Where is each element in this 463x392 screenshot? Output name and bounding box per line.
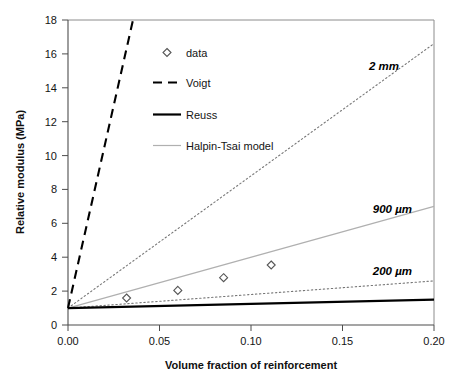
y-tick-label-4: 4 — [51, 251, 57, 263]
y-tick-label-14: 14 — [45, 82, 57, 94]
x-tick-label-015: 0.15 — [332, 335, 353, 347]
chart-figure: 18 16 14 12 10 8 6 4 2 0 0.00 0.05 0.10 … — [0, 0, 463, 392]
legend-label-halpin-tsai: Halpin-Tsai model — [186, 140, 273, 152]
y-tick-label-0: 0 — [51, 319, 57, 331]
y-tick-label-2: 2 — [51, 285, 57, 297]
chart-background — [0, 0, 463, 392]
x-axis-title: Volume fraction of reinforcement — [165, 359, 337, 371]
y-axis-title: Relative modulus (MPa) — [14, 110, 26, 234]
x-tick-label-005: 0.05 — [149, 335, 170, 347]
relative-modulus-chart: 18 16 14 12 10 8 6 4 2 0 0.00 0.05 0.10 … — [0, 0, 463, 392]
y-tick-label-12: 12 — [45, 116, 57, 128]
x-tick-label-010: 0.10 — [240, 335, 261, 347]
annotation-200um: 200 µm — [372, 265, 412, 277]
y-tick-label-8: 8 — [51, 183, 57, 195]
x-tick-label-000: 0.00 — [57, 335, 78, 347]
annotation-2mm: 2 mm — [368, 60, 399, 72]
y-tick-label-16: 16 — [45, 48, 57, 60]
y-tick-label-6: 6 — [51, 217, 57, 229]
y-tick-label-10: 10 — [45, 150, 57, 162]
x-tick-label-020: 0.20 — [423, 335, 444, 347]
legend-label-reuss: Reuss — [186, 109, 218, 121]
legend-label-data: data — [186, 47, 208, 59]
annotation-900um: 900 µm — [373, 203, 412, 215]
y-tick-label-18: 18 — [45, 14, 57, 26]
legend-label-voigt: Voigt — [186, 77, 210, 89]
